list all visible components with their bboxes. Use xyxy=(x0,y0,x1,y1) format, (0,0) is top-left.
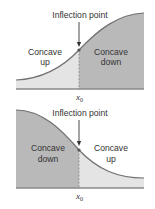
left-region-label-1: Concave xyxy=(31,143,65,153)
right-region-label-1: Concave xyxy=(94,143,128,153)
inflection-label: Inflection point xyxy=(52,108,108,118)
concavity-diagrams: Inflection point Concave up Concave down… xyxy=(0,0,155,209)
x0-label: x0 xyxy=(75,92,83,103)
inflection-point-marker xyxy=(77,148,80,151)
diagram-decreasing: Inflection point Concave down Concave up… xyxy=(16,108,144,202)
arrow-head-icon xyxy=(77,42,81,47)
right-region-label-2: down xyxy=(101,57,122,67)
right-region-label-1: Concave xyxy=(94,47,128,57)
left-region-label-1: Concave xyxy=(28,47,62,57)
right-region-label-2: up xyxy=(106,154,116,164)
inflection-label: Inflection point xyxy=(52,10,108,20)
arrow-head-icon xyxy=(77,141,81,146)
x0-label: x0 xyxy=(75,191,83,202)
diagram-increasing: Inflection point Concave up Concave down… xyxy=(16,10,144,103)
inflection-point-marker xyxy=(77,48,80,51)
left-region-label-2: up xyxy=(40,57,50,67)
left-region-label-2: down xyxy=(38,154,59,164)
